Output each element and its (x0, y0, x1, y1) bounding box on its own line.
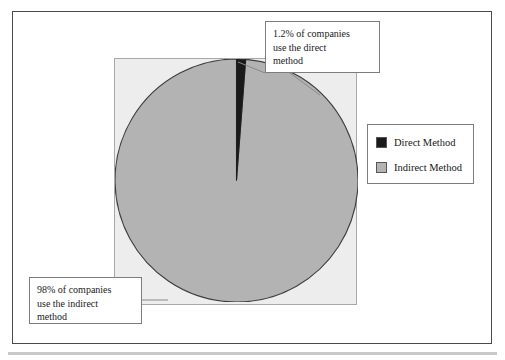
callout-indirect-line-2: use the indirect (37, 297, 135, 311)
callout-direct-line-1: 1.2% of companies (273, 27, 373, 41)
callout-indirect-line-3: method (37, 310, 135, 324)
legend-swatch-direct-icon (376, 137, 387, 148)
bottom-divider (8, 352, 497, 355)
callout-direct-line-2: use the direct (273, 41, 373, 55)
legend-label-direct: Direct Method (394, 137, 456, 148)
callout-direct-line-3: method (273, 54, 373, 68)
callout-indirect-line-1: 98% of companies (37, 283, 135, 297)
chart-legend: Direct Method Indirect Method (367, 124, 474, 184)
legend-label-indirect: Indirect Method (394, 162, 462, 173)
callout-indirect-method: 98% of companies use the indirect method (29, 277, 142, 324)
legend-item-direct[interactable]: Direct Method (376, 132, 473, 153)
pie-svg (115, 59, 358, 302)
pie-chart (115, 59, 358, 302)
callout-direct-method: 1.2% of companies use the direct method (265, 21, 380, 73)
legend-item-indirect[interactable]: Indirect Method (376, 157, 473, 178)
chart-canvas: Direct Method Indirect Method 1.2% of co… (0, 0, 505, 360)
legend-swatch-indirect-icon (376, 162, 387, 173)
